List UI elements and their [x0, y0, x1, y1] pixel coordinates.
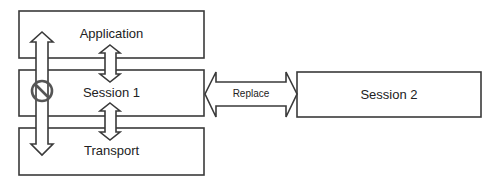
session2-label: Session 2: [297, 87, 481, 102]
replace-label: Replace: [216, 88, 286, 99]
app-session-arrow: [100, 45, 120, 82]
session1-label: Session 1: [19, 85, 204, 100]
session-transport-arrow: [100, 103, 120, 140]
transport-label: Transport: [19, 143, 204, 158]
application-label: Application: [19, 26, 204, 41]
